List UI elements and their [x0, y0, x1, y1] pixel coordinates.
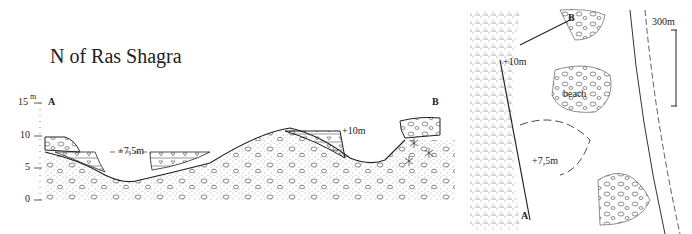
figure-canvas — [0, 0, 692, 234]
axis-unit: m — [30, 92, 36, 101]
endpoint-b: B — [432, 96, 439, 107]
tick-5: 5 — [25, 161, 30, 172]
tick-15: 15 — [18, 96, 28, 107]
endpoint-a: A — [48, 96, 55, 107]
label-10m: +10m — [342, 125, 365, 136]
figure-title: N of Ras Shagra — [50, 45, 182, 68]
map-label-b: B — [568, 12, 575, 23]
tick-10: 10 — [20, 129, 30, 140]
label-7-5m: +7,5m — [118, 145, 144, 156]
tick-0: 0 — [25, 193, 30, 204]
alluvial-fan-deposit — [45, 128, 455, 200]
scale-label: 300m — [652, 16, 675, 27]
cross-section — [34, 103, 455, 200]
map-label-7-5m: +7,5m — [532, 155, 558, 166]
reef-block-b — [400, 117, 440, 138]
gravel-cap-left — [45, 137, 80, 152]
map-label-10m: +10m — [503, 56, 526, 67]
alluvium-zone — [470, 10, 520, 230]
map-label-beach: beach — [563, 88, 586, 99]
profile-line-upper — [520, 20, 570, 45]
location-map — [470, 10, 680, 234]
reef-zone-b — [560, 10, 605, 40]
map-label-a: A — [521, 210, 528, 221]
